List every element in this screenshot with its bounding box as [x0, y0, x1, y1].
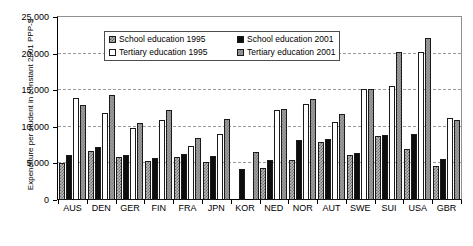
y-axis-tick-label: 25,000	[21, 12, 49, 22]
x-axis-tick-mark	[116, 200, 117, 204]
y-axis-tick-label: 10,000	[21, 122, 49, 132]
x-axis-tick-label-aus: AUS	[58, 203, 87, 213]
x-axis-tick-label-swe: SWE	[346, 203, 375, 213]
bar-s95-ned	[260, 168, 266, 200]
bar-s95-sui	[375, 136, 381, 200]
bar-t01-ned	[281, 109, 287, 201]
x-axis-tick-mark	[346, 200, 347, 204]
x-axis-tick-label-fra: FRA	[173, 203, 202, 213]
x-axis-tick-mark	[144, 200, 145, 204]
bar-s95-fra	[174, 157, 180, 200]
bar-s01-den	[95, 147, 101, 200]
bar-t95-ger	[130, 128, 136, 200]
bar-group-swe	[346, 17, 375, 200]
chart-legend: School education 1995 School education 2…	[104, 31, 340, 61]
bar-t01-gbr	[454, 120, 460, 200]
bar-s95-usa	[404, 149, 410, 200]
x-axis-tick-label-gbr: GBR	[432, 203, 461, 213]
bar-t01-aut	[339, 114, 345, 200]
bar-t95-gbr	[447, 118, 453, 200]
legend-item-tertiary-education-2001: Tertiary education 2001	[237, 47, 335, 57]
legend-swatch-icon	[237, 49, 244, 56]
x-axis-tick-mark	[173, 200, 174, 204]
x-axis-tick-mark	[58, 200, 59, 204]
y-axis-tick-label: 15,000	[21, 85, 49, 95]
bar-t01-fra	[195, 138, 201, 200]
bar-t01-kor	[253, 152, 259, 200]
bar-s95-gbr	[433, 166, 439, 200]
bar-t01-jpn	[224, 119, 230, 200]
x-axis-tick-mark	[260, 200, 261, 204]
bar-t01-fin	[166, 110, 172, 200]
x-axis-tick-labels: AUSDENGERFINFRAJPNKORNEDNORAUTSWESUIUSAG…	[58, 203, 461, 213]
bar-t01-ger	[137, 123, 143, 200]
bar-s01-ger	[123, 155, 129, 200]
x-axis-tick-mark	[403, 200, 404, 204]
bar-group-aus	[58, 17, 87, 200]
bar-t01-nor	[310, 99, 316, 200]
legend-label: School education 1995	[119, 34, 206, 44]
y-axis-tick-mark	[53, 163, 57, 164]
x-axis-tick-mark	[288, 200, 289, 204]
bar-t95-usa	[418, 52, 424, 200]
bar-s01-aus	[66, 155, 72, 200]
y-axis-tick-label: 5,000	[26, 158, 49, 168]
x-axis-tick-label-ned: NED	[259, 203, 288, 213]
bar-t95-sui	[389, 86, 395, 200]
legend-swatch-icon	[109, 49, 116, 56]
y-axis-tick-mark	[53, 17, 57, 18]
bar-t95-fra	[188, 146, 194, 200]
bar-s95-aut	[318, 142, 324, 200]
y-axis-tick-labels: 25,00020,00015,00010,0005,0000	[0, 0, 53, 246]
bar-t95-den	[102, 113, 108, 200]
y-axis-tick-mark	[53, 127, 57, 128]
x-axis-tick-label-jpn: JPN	[202, 203, 231, 213]
bar-group-gbr	[432, 17, 461, 200]
bar-s01-usa	[411, 134, 417, 200]
bar-s01-sui	[382, 135, 388, 200]
bar-t95-nor	[303, 104, 309, 200]
x-axis-tick-label-fin: FIN	[144, 203, 173, 213]
bar-s95-swe	[347, 155, 353, 200]
bar-t01-den	[109, 95, 115, 200]
legend-item-tertiary-education-1995: Tertiary education 1995	[109, 47, 237, 57]
bar-t01-aus	[80, 105, 86, 200]
bar-s01-aut	[325, 139, 331, 200]
legend-item-school-education-1995: School education 1995	[109, 34, 237, 44]
legend-row: School education 1995 School education 2…	[109, 34, 335, 44]
bar-s95-nor	[289, 160, 295, 200]
bar-t95-swe	[361, 89, 367, 200]
x-axis-tick-label-kor: KOR	[231, 203, 260, 213]
legend-label: Tertiary education 1995	[119, 47, 207, 57]
bar-group-usa	[403, 17, 432, 200]
bar-t95-jpn	[217, 134, 223, 200]
bar-t95-aut	[332, 122, 338, 200]
bar-t01-swe	[368, 89, 374, 200]
x-axis-tick-label-usa: USA	[403, 203, 432, 213]
bar-t95-fin	[159, 120, 165, 200]
x-axis-tick-mark	[461, 200, 462, 204]
legend-label: Tertiary education 2001	[247, 47, 335, 57]
bar-s01-kor	[239, 169, 245, 200]
bar-s95-ger	[116, 157, 122, 200]
x-axis-tick-label-nor: NOR	[288, 203, 317, 213]
x-axis-tick-mark	[87, 200, 88, 204]
legend-label: School education 2001	[247, 34, 334, 44]
bar-s95-jpn	[203, 162, 209, 200]
y-axis-tick-mark	[53, 54, 57, 55]
bar-s01-fra	[181, 154, 187, 200]
bar-s95-fin	[145, 161, 151, 200]
y-axis-tick-mark	[53, 90, 57, 91]
bar-chart: Expenditure per student in constant 2001…	[0, 0, 473, 246]
bar-t95-aus	[73, 98, 79, 200]
x-axis-tick-mark	[317, 200, 318, 204]
bar-s01-nor	[296, 140, 302, 200]
legend-swatch-icon	[237, 36, 244, 43]
bar-s95-aus	[59, 163, 65, 200]
y-axis-tick-label: 20,000	[21, 49, 49, 59]
x-axis-tick-mark	[432, 200, 433, 204]
x-axis-tick-label-sui: SUI	[375, 203, 404, 213]
x-axis-tick-mark	[231, 200, 232, 204]
legend-swatch-icon	[109, 36, 116, 43]
bar-group-sui	[375, 17, 404, 200]
